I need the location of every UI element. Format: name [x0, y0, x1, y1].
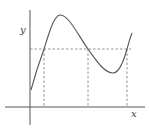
function-graph: y x — [0, 0, 149, 130]
y-axis-label: y — [19, 24, 26, 35]
function-curve — [31, 15, 132, 90]
x-axis-label: x — [131, 108, 137, 119]
